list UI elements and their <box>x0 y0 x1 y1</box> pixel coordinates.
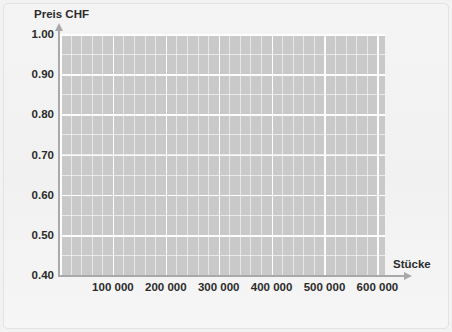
x-tick-label: 300 000 <box>198 281 240 293</box>
x-tick-label: 100 000 <box>92 281 134 293</box>
y-tick-label: 0.80 <box>10 108 54 120</box>
y-axis-line <box>58 30 60 277</box>
x-tick-label: 400 000 <box>251 281 293 293</box>
x-tick-label: 200 000 <box>145 281 187 293</box>
y-axis-tick-labels: 1.00 0.90 0.80 0.70 0.60 0.50 0.40 <box>0 0 54 332</box>
y-tick-label: 0.40 <box>10 269 54 281</box>
plot-area <box>60 34 385 275</box>
x-tick-label: 500 000 <box>304 281 346 293</box>
x-axis-title: Stücke <box>393 258 431 270</box>
x-axis-arrow-icon <box>404 272 412 280</box>
y-tick-label: 0.50 <box>10 229 54 241</box>
y-tick-label: 0.70 <box>10 149 54 161</box>
chart-figure: Preis CHF Stücke 1.00 0.90 0.80 0.70 0.6… <box>0 0 452 332</box>
x-tick-label: 600 000 <box>357 281 399 293</box>
y-tick-label: 0.60 <box>10 189 54 201</box>
y-tick-label: 0.90 <box>10 68 54 80</box>
y-axis-arrow-icon <box>55 23 63 31</box>
x-axis-line <box>58 275 405 277</box>
y-tick-label: 1.00 <box>10 28 54 40</box>
